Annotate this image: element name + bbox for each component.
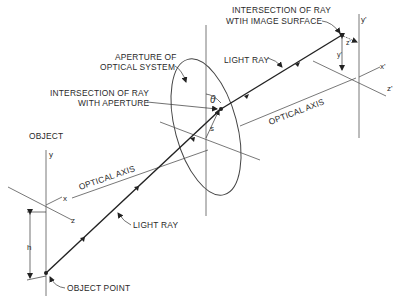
optical-axis-label-image: OPTICAL AXIS — [267, 96, 326, 127]
object-height-label: h — [27, 243, 31, 252]
optical-axis-label-object: OPTICAL AXIS — [77, 163, 136, 192]
image-y-label: y' — [361, 15, 367, 24]
image-z-offset-label: z' — [346, 39, 351, 46]
aperture-intersection-label-line2: WITH APERTURE — [78, 98, 150, 108]
image-y-offset-label: y' — [337, 51, 342, 59]
light-ray-object-segment — [46, 109, 221, 273]
light-ray-image-segment — [221, 35, 342, 109]
object-height-dimension: h — [27, 212, 46, 280]
optical-system-diagram: y x z h OPTICAL AXIS s θ OPTICAL AXIS — [0, 0, 399, 303]
image-x-label: x' — [380, 62, 386, 71]
aperture-intersection-label-line1: INTERSECTION OF RAY — [50, 88, 149, 98]
object-x-axis — [46, 197, 62, 205]
light-ray-label-lower: LIGHT RAY — [133, 220, 178, 230]
image-intersection-label-line1: INTERSECTION OF RAY — [232, 5, 331, 15]
object-point-label: OBJECT POINT — [67, 283, 130, 293]
object-x-label: x — [63, 194, 67, 203]
light-ray-upper-leader — [268, 58, 282, 67]
object-z-axis — [8, 187, 72, 220]
light-ray-label-upper: LIGHT RAY — [224, 55, 269, 65]
light-ray-lower-leader — [118, 213, 131, 225]
aperture-label-line2: OPTICAL SYSTEM — [100, 62, 175, 72]
object-label: OBJECT — [29, 131, 63, 141]
image-axes: y' x' z' y' z' — [313, 14, 393, 138]
object-point-leader — [50, 277, 65, 288]
aperture-theta-label: θ — [210, 94, 216, 105]
aperture-label-line1: APERTURE OF — [115, 52, 177, 62]
object-axes: y x z — [8, 150, 75, 296]
object-point-dot — [44, 271, 48, 275]
image-intersection-label-line2: WTIH IMAGE SURFACE — [226, 16, 322, 26]
aperture-intersection-leader — [147, 102, 217, 109]
image-z-label: z' — [387, 84, 393, 93]
image-intersection-leader — [322, 21, 340, 33]
object-y-label: y — [49, 150, 53, 159]
object-z-label: z — [71, 216, 75, 225]
image-x-axis — [359, 67, 380, 77]
light-ray — [44, 33, 344, 275]
image-z-axis — [313, 61, 386, 96]
optical-axis-object-segment — [72, 150, 208, 198]
aperture-s-label: s — [210, 124, 214, 133]
optical-axis-image-segment — [240, 78, 356, 126]
